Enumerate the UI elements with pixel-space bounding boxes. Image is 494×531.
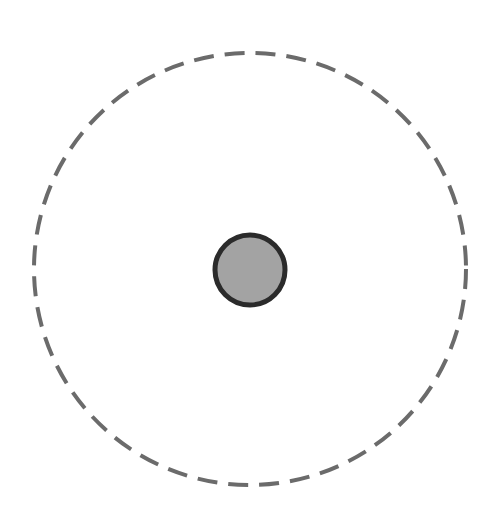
inner-filled-circle: [215, 235, 285, 305]
diagram-canvas: [0, 0, 494, 531]
